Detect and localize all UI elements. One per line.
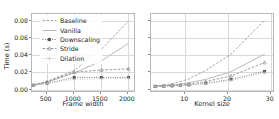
x-tick-mark	[227, 92, 228, 94]
x-tick-mark	[270, 92, 271, 94]
y-tick-label: 0.00	[14, 85, 28, 92]
data-point-stride	[127, 67, 130, 70]
y-tick-mark	[148, 71, 150, 72]
y-tick-mark	[29, 71, 31, 72]
data-point-stride	[263, 61, 266, 64]
x-tick-mark	[184, 92, 185, 94]
y-tick-mark	[29, 20, 31, 21]
x-tick-label: 1000	[65, 95, 81, 102]
y-tick-label: 0.02	[14, 68, 28, 75]
series-layer-right	[151, 14, 273, 91]
panel-kernel-size: Kernel size 102030 BaselineVanillaDownsc…	[139, 0, 279, 119]
x-tick-label: 500	[40, 95, 52, 102]
legend-label: Dilation	[60, 54, 84, 63]
x-tick-mark	[100, 92, 101, 94]
y-tick-mark	[29, 37, 31, 38]
y-axis-label: Time (s)	[3, 36, 11, 76]
legend-item-stride[interactable]: Stride	[42, 44, 100, 53]
y-tick-mark	[29, 89, 31, 90]
y-tick-mark	[148, 89, 150, 90]
legend-key-baseline-icon	[42, 16, 57, 25]
y-tick-label: 0.04	[14, 51, 28, 58]
legend-label: Stride	[60, 44, 79, 53]
legend-label: Vanilla	[60, 26, 81, 35]
legend-item-dilation[interactable]: Dilation	[42, 54, 100, 63]
x-axis-label-kernel-size: Kernel size	[150, 100, 274, 108]
legend-item-vanilla[interactable]: Vanilla	[42, 25, 100, 34]
legend-key-stride-icon	[42, 44, 57, 53]
y-tick-mark	[148, 54, 150, 55]
series-line-vanilla	[155, 54, 264, 86]
x-tick-mark	[127, 92, 128, 94]
x-tick-mark	[73, 92, 74, 94]
y-tick-label: 0.08	[14, 16, 28, 23]
y-tick-label: 0.06	[14, 34, 28, 41]
y-tick-mark	[148, 37, 150, 38]
figure-root: Time (s) Frame width 0.000.020.040.060.0…	[0, 0, 279, 119]
x-tick-label: 1500	[92, 95, 108, 102]
legend-label: Baseline	[60, 16, 87, 25]
series-line-baseline	[155, 20, 264, 86]
legend-key-downscaling-icon	[42, 35, 57, 44]
legend-item-baseline[interactable]: Baseline	[42, 16, 100, 25]
panel-frame-width: Time (s) Frame width 0.000.020.040.060.0…	[0, 0, 139, 119]
legend-left: BaselineVanillaDownscalingStrideDilation	[40, 15, 102, 64]
plot-area-kernel-size	[150, 13, 274, 92]
x-tick-label: 30	[266, 95, 274, 102]
y-tick-mark	[148, 20, 150, 21]
x-tick-label: 10	[180, 95, 188, 102]
legend-label: Downscaling	[60, 35, 100, 44]
x-tick-mark	[46, 92, 47, 94]
x-tick-label: 2000	[119, 95, 135, 102]
legend-item-downscaling[interactable]: Downscaling	[42, 35, 100, 44]
legend-key-vanilla-icon	[42, 26, 57, 35]
y-tick-mark	[29, 54, 31, 55]
legend-key-dilation-icon	[42, 54, 57, 63]
x-tick-label: 20	[223, 95, 231, 102]
